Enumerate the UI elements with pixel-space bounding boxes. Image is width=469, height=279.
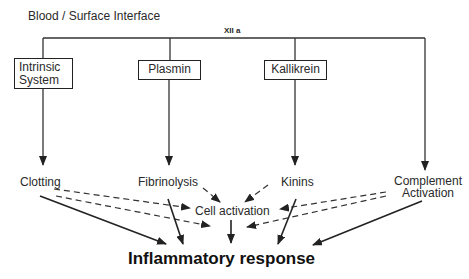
intrinsic-line2: System xyxy=(19,74,68,87)
clotting-label: Clotting xyxy=(20,175,61,189)
factor-xiia-label: XII a xyxy=(224,26,240,35)
kinins-label: Kinins xyxy=(281,175,314,189)
arrow-complement-to-inflammatory xyxy=(313,201,422,245)
plasmin-box: Plasmin xyxy=(138,60,201,80)
dashed-fibrinolysis-to-cell xyxy=(203,188,220,202)
complement-line2: Activation xyxy=(390,187,466,199)
plasmin-label: Plasmin xyxy=(148,62,191,76)
diagram-title: Blood / Surface Interface xyxy=(28,9,160,23)
diagram-connectors xyxy=(0,0,469,279)
arrow-clotting-to-inflammatory xyxy=(40,196,166,244)
fibrinolysis-label: Fibrinolysis xyxy=(138,175,198,189)
dashed-kinins-to-cell xyxy=(245,185,268,202)
inflammatory-response-label: Inflammatory response xyxy=(128,249,315,269)
kallikrein-label: Kallikrein xyxy=(271,62,320,76)
kallikrein-box: Kallikrein xyxy=(264,60,327,80)
cell-activation-label: Cell activation xyxy=(195,204,270,218)
complement-activation-label: Complement Activation xyxy=(390,175,466,199)
arrow-kinins-to-inflammatory xyxy=(278,199,296,244)
intrinsic-system-box: Intrinsic System xyxy=(14,58,73,89)
